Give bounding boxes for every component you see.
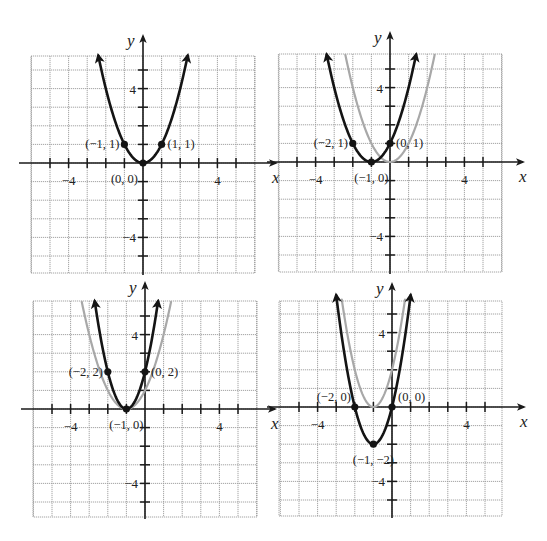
x-axis-label: x <box>270 414 279 433</box>
point-label: (−2, 0) <box>317 390 351 404</box>
x-tick-label: −4 <box>309 172 323 187</box>
graph-panel-bottom-left: −444−4xy(−2, 2)(−1, 0)(0, 2) <box>21 278 279 519</box>
y-tick-label: −4 <box>124 476 138 491</box>
primary-curve-left <box>95 301 127 409</box>
point-label: (−2, 2) <box>69 365 103 379</box>
point-marker <box>158 141 165 148</box>
point-marker <box>388 403 395 410</box>
y-tick-label: 4 <box>130 82 137 97</box>
point-marker <box>141 368 148 375</box>
graph-panel-bottom-right: −444−4xy(−2, 0)(−1, −2)(0, 0) <box>267 279 528 518</box>
point-label: (−1, −2) <box>353 453 394 467</box>
figure-transformations-of-parabola: −444−4xy(−1, 1)(0, 0)(1, 1)−444−4xy(−2, … <box>0 0 547 541</box>
point-marker <box>351 403 358 410</box>
y-tick-label: −4 <box>371 474 385 489</box>
y-axis-label: y <box>127 278 137 297</box>
point-marker <box>349 140 356 147</box>
point-label: (−2, 1) <box>314 136 348 150</box>
y-axis-label: y <box>125 31 135 50</box>
axes: −444−4xy <box>267 28 527 274</box>
point-label: (0, 1) <box>396 136 423 150</box>
y-tick-label: −4 <box>369 229 383 244</box>
point-marker <box>121 141 128 148</box>
point-marker <box>139 159 146 166</box>
point-marker <box>104 368 111 375</box>
point-label: (−1, 0) <box>354 171 388 185</box>
y-tick-label: 4 <box>132 328 139 343</box>
y-tick-label: 4 <box>377 81 384 96</box>
x-axis-label: x <box>519 412 528 431</box>
y-tick-label: −4 <box>122 230 136 245</box>
point-label: (0, 0) <box>111 172 138 186</box>
point-label: (−1, 1) <box>85 137 119 151</box>
y-tick-label: 4 <box>379 326 386 341</box>
point-marker <box>386 140 393 147</box>
point-label: (−1, 0) <box>109 418 143 432</box>
point-label: (1, 1) <box>168 137 195 151</box>
point-marker <box>368 158 375 165</box>
axes: −444−4xy <box>19 31 280 275</box>
figure-canvas: −444−4xy(−1, 1)(0, 0)(1, 1)−444−4xy(−2, … <box>0 0 547 541</box>
graph-panel-top-left: −444−4xy(−1, 1)(0, 0)(1, 1) <box>19 31 280 275</box>
x-tick-label: −4 <box>64 419 78 434</box>
primary-curve-right <box>126 301 158 409</box>
x-axis-label: x <box>518 167 527 186</box>
point-label: (0, 2) <box>151 365 178 379</box>
point-marker <box>370 441 377 448</box>
point-marker <box>123 405 130 412</box>
x-tick-label: 4 <box>214 173 221 188</box>
x-tick-label: −4 <box>311 417 325 432</box>
y-axis-label: y <box>374 279 384 298</box>
x-tick-label: 4 <box>216 419 223 434</box>
y-axis-label: y <box>372 28 382 47</box>
axes: −444−4xy <box>21 278 279 519</box>
x-tick-label: 4 <box>461 172 468 187</box>
graph-panel-top-right: −444−4xy(−2, 1)(−1, 0)(0, 1) <box>267 28 527 274</box>
x-tick-label: −4 <box>62 173 76 188</box>
x-tick-label: 4 <box>463 417 470 432</box>
point-label: (0, 0) <box>398 390 425 404</box>
